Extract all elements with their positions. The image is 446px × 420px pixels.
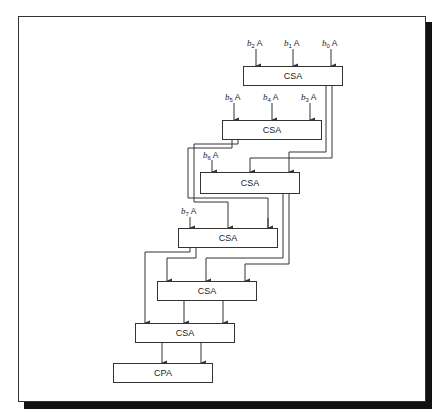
input-label-b6a: b6 A — [203, 150, 218, 163]
csa-block-1: CSA — [243, 66, 343, 86]
input-label-b7a: b7 A — [181, 206, 196, 219]
input-label-b1a: b1 A — [284, 38, 299, 51]
cpa-block: CPA — [113, 363, 213, 383]
input-label-b5a: b5 A — [225, 92, 240, 105]
input-label-b0a: b0 A — [322, 38, 337, 51]
csa-block-5: CSA — [157, 281, 257, 301]
wires — [0, 0, 446, 420]
input-label-b3a: b3 A — [301, 92, 316, 105]
input-label-b4a: b4 A — [263, 92, 278, 105]
csa-block-4: CSA — [178, 228, 278, 248]
csa-block-6: CSA — [135, 323, 235, 343]
input-label-b2a: b2 A — [247, 38, 262, 51]
csa-block-2: CSA — [222, 120, 322, 140]
csa-block-3: CSA — [200, 172, 300, 194]
